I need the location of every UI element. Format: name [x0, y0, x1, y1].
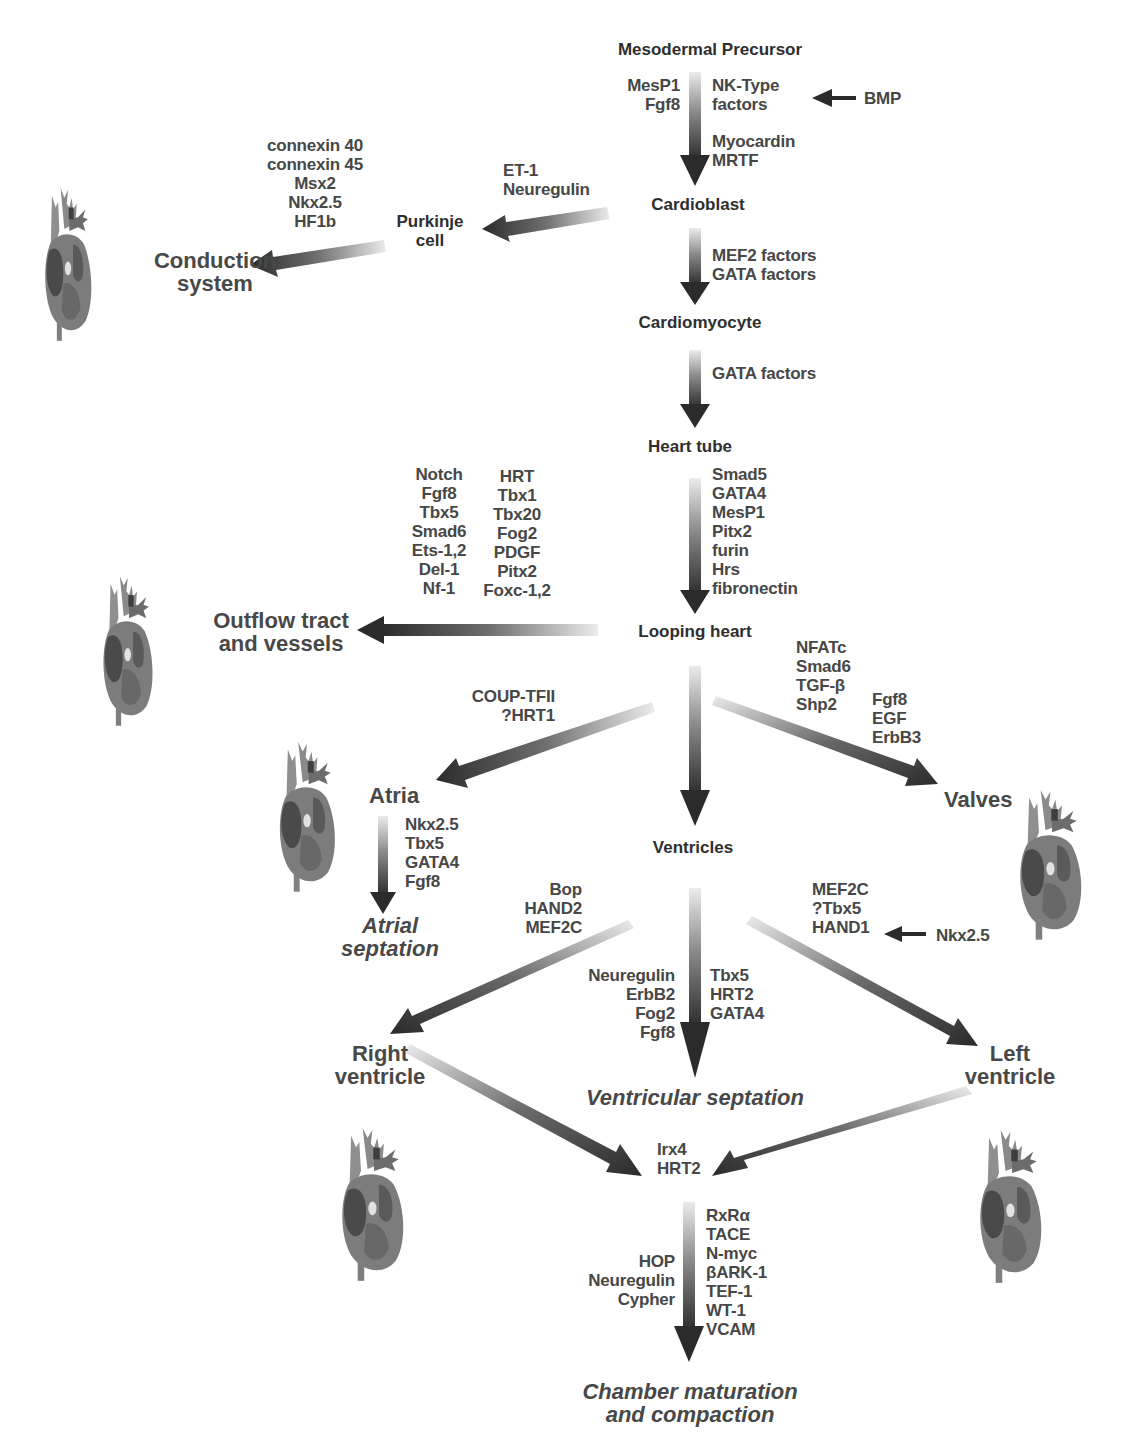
arrow-cardioblast-to-purkinje — [482, 207, 610, 242]
arrow-ventricles-to-septation — [680, 888, 710, 1078]
cardiac-development-diagram: Mesodermal Precursor Cardioblast Cardiom… — [0, 0, 1126, 1448]
arrow-cardiomyocyte-to-hearttube — [680, 350, 710, 428]
factors-valves-col2: Fgf8 EGF ErbB3 — [872, 690, 952, 747]
arrow-convergence-to-maturation — [674, 1202, 704, 1362]
factors-cardioblast-to-myocyte: MEF2 factors GATA factors — [712, 246, 852, 284]
factors-tube-to-looping: Smad5 GATA4 MesP1 Pitx2 furin Hrs fibron… — [712, 465, 822, 598]
heart-illustration-valves — [1020, 790, 1081, 940]
factors-nk-type: NK-Type factors — [712, 76, 812, 114]
factors-purkinje-inducers: ET-1 Neuregulin — [503, 161, 623, 199]
stage-heart-tube: Heart tube — [620, 437, 760, 456]
heart-illustration-conduction — [45, 188, 91, 341]
factors-atrial-septation: Nkx2.5 Tbx5 GATA4 Fgf8 — [405, 815, 485, 891]
arrow-bmp — [812, 89, 856, 107]
factors-septation-left: Neuregulin ErbB2 Fog2 Fgf8 — [560, 966, 675, 1042]
outcome-outflow-tract: Outflow tract and vessels — [186, 609, 376, 655]
factors-maturation-left: HOP Neuregulin Cypher — [560, 1252, 675, 1309]
stage-mesodermal-precursor: Mesodermal Precursor — [600, 40, 820, 59]
arrow-hearttube-to-looping — [680, 478, 710, 614]
outcome-left-ventricle: Left ventricle — [940, 1042, 1080, 1088]
arrow-cardioblast-to-cardiomyocyte — [680, 228, 710, 305]
outcome-conduction-system: Conduction system — [120, 249, 310, 295]
factor-bmp: BMP — [864, 89, 924, 108]
factor-nkx25-input: Nkx2.5 — [936, 926, 1006, 945]
outcome-atrial-septation: Atrial septation — [325, 914, 455, 960]
arrow-layer — [0, 0, 1126, 1448]
arrow-looping-to-ventricles — [680, 666, 710, 826]
factors-maturation-right: RxRα TACE N-myc βARK-1 TEF-1 WT-1 VCAM — [706, 1206, 786, 1339]
heart-illustration-right-ventricle — [342, 1128, 403, 1281]
factors-myocardin: Myocardin MRTF — [712, 132, 822, 170]
stage-looping-heart: Looping heart — [610, 622, 780, 641]
factors-right-ventricle: Bop HAND2 MEF2C — [500, 880, 582, 937]
heart-illustration-left-ventricle — [980, 1130, 1041, 1283]
factors-valves-col1: NFATc Smad6 TGF-β Shp2 — [796, 638, 876, 714]
stage-cardiomyocyte: Cardiomyocyte — [610, 313, 790, 332]
factors-chamber-convergence: Irx4 HRT2 — [657, 1140, 717, 1178]
factors-outflow-col1: Notch Fgf8 Tbx5 Smad6 Ets-1,2 Del-1 Nf-1 — [404, 465, 474, 598]
outcome-atria: Atria — [369, 784, 459, 807]
outcome-right-ventricle: Right ventricle — [310, 1042, 450, 1088]
factors-outflow-col2: HRT Tbx1 Tbx20 Fog2 PDGF Pitx2 Foxc-1,2 — [472, 467, 562, 600]
factors-myocyte-to-tube: GATA factors — [712, 364, 852, 383]
arrow-precursor-to-cardioblast — [680, 72, 710, 186]
factors-left-ventricle: MEF2C ?Tbx5 HAND1 — [812, 880, 902, 937]
outcome-ventricular-septation: Ventricular septation — [560, 1086, 830, 1109]
factors-atria-inducers: COUP-TFII ?HRT1 — [455, 687, 555, 725]
outcome-chamber-maturation: Chamber maturation and compaction — [545, 1380, 835, 1426]
factors-precursor-left: MesP1 Fgf8 — [600, 76, 680, 114]
arrow-looping-to-outflow — [357, 616, 598, 644]
stage-purkinje-cell: Purkinje cell — [385, 212, 475, 250]
arrow-atria-to-septation — [370, 816, 396, 914]
heart-illustration-atria — [280, 742, 335, 892]
factors-septation-right: Tbx5 HRT2 GATA4 — [710, 966, 790, 1023]
outcome-valves: Valves — [944, 788, 1044, 811]
stage-ventricles: Ventricles — [618, 838, 768, 857]
factors-conduction: connexin 40 connexin 45 Msx2 Nkx2.5 HF1b — [240, 136, 390, 231]
stage-cardioblast: Cardioblast — [628, 195, 768, 214]
heart-illustration-outflow — [103, 576, 152, 726]
